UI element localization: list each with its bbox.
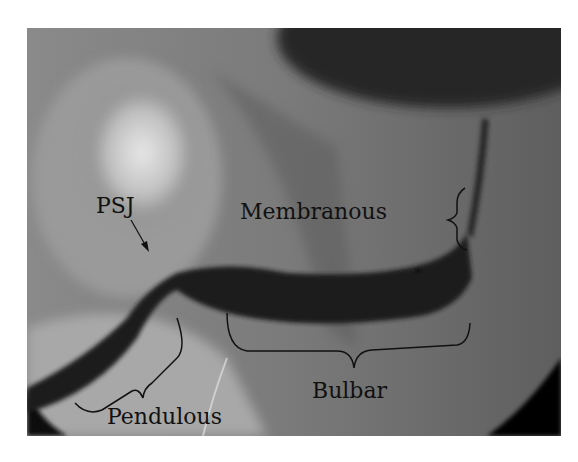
asterisk-marker: * [414, 265, 422, 284]
xray-image: PSJ Membranous * Bulbar Pendulous [27, 28, 561, 436]
label-bulbar: Bulbar [312, 380, 387, 402]
xray-illustration [27, 28, 561, 436]
label-psj: PSJ [96, 195, 135, 217]
label-membranous: Membranous [240, 201, 387, 223]
label-pendulous: Pendulous [107, 406, 222, 428]
